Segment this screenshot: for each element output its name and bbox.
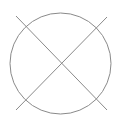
- crossed-circle-diagram: [0, 0, 121, 127]
